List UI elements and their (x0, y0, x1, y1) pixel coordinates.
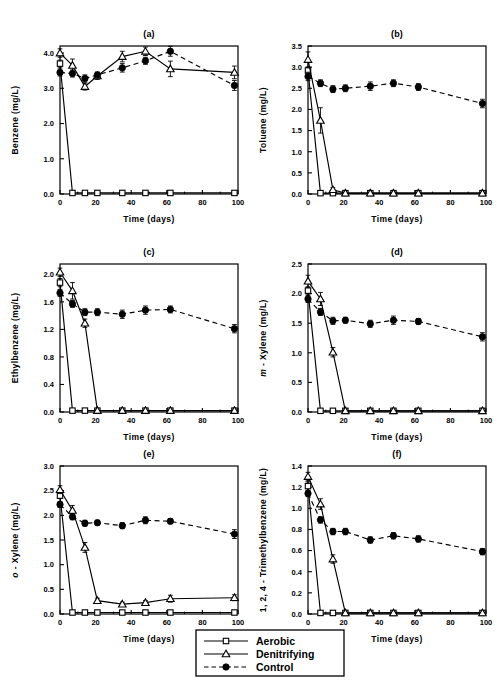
x-tick-label: 0 (58, 618, 62, 627)
data-point-open-triangle (329, 186, 337, 193)
data-point-filled-circle (390, 317, 396, 323)
series-denitrifying (56, 486, 238, 607)
series-denitrifying (304, 52, 486, 196)
data-point-filled-circle (390, 80, 396, 86)
data-point-filled-circle (142, 517, 148, 523)
y-tick-label: 2.5 (292, 84, 302, 93)
series-aerobic (305, 482, 485, 616)
data-point-filled-circle (367, 537, 373, 543)
y-tick-label: 0.0 (44, 610, 54, 619)
data-point-filled-circle (342, 528, 348, 534)
data-point-filled-circle (342, 85, 348, 91)
data-point-filled-circle (342, 317, 348, 323)
legend-label: Aerobic (256, 635, 295, 647)
x-tick-label: 80 (446, 618, 454, 627)
y-tick-label: 1.2 (292, 483, 302, 492)
data-point-filled-circle (167, 48, 173, 54)
x-tick-label: 20 (339, 198, 347, 207)
chart-svg: (c)0.00.40.81.21.62.0020406080100Time (d… (0, 240, 249, 455)
data-point-open-square (318, 408, 323, 413)
data-point-filled-circle (142, 307, 148, 313)
data-point-filled-circle (305, 490, 311, 496)
data-point-open-square (143, 190, 148, 195)
data-point-open-square (305, 483, 310, 488)
series-denitrifying (56, 268, 238, 413)
x-tick-label: 80 (198, 198, 206, 207)
x-tick-label: 40 (127, 198, 135, 207)
x-tick-label: 60 (411, 198, 419, 207)
data-point-open-square (70, 408, 75, 413)
data-point-filled-circle (167, 518, 173, 524)
data-point-filled-circle (305, 296, 311, 302)
data-point-open-square (330, 610, 335, 615)
x-tick-label: 40 (375, 618, 383, 627)
y-tick-label: 1.5 (44, 536, 54, 545)
panel-d: (d)0.00.51.01.52.02.5020406080100Time (d… (248, 240, 497, 455)
data-point-open-triangle (167, 65, 175, 72)
data-point-filled-circle (69, 514, 75, 520)
panel-e: (e)0.00.51.01.52.02.53.0020406080100Time… (0, 442, 249, 657)
x-tick-label: 0 (58, 198, 62, 207)
series-line (308, 486, 482, 613)
series-denitrifying (304, 472, 486, 615)
data-point-filled-circle (415, 536, 421, 542)
data-point-open-square (70, 610, 75, 615)
panel-title: (e) (143, 449, 155, 459)
plot-frame (308, 466, 486, 614)
data-point-open-triangle (317, 500, 325, 507)
x-tick-label: 60 (411, 618, 419, 627)
x-tick-label: 100 (232, 198, 245, 207)
chart-svg: (d)0.00.51.01.52.02.5020406080100Time (d… (248, 240, 497, 455)
data-point-open-square (168, 190, 173, 195)
data-point-open-square (318, 610, 323, 615)
data-point-filled-circle (69, 70, 75, 76)
series-line (308, 477, 482, 613)
series-aerobic (57, 278, 237, 413)
data-point-open-square (232, 190, 237, 195)
series-control (305, 295, 486, 341)
data-point-open-triangle (81, 544, 89, 551)
legend-label: Control (256, 661, 293, 673)
data-point-filled-circle (367, 321, 373, 327)
x-tick-label: 0 (306, 198, 310, 207)
data-point-open-square (70, 190, 75, 195)
y-tick-label: 2.0 (292, 105, 302, 114)
data-point-filled-circle (94, 520, 100, 526)
x-tick-label: 60 (163, 618, 171, 627)
y-tick-label: 4.0 (44, 49, 54, 58)
plot-frame (60, 46, 238, 194)
data-point-open-triangle (56, 268, 64, 275)
x-axis-title: Time (days) (123, 432, 174, 442)
data-point-filled-circle (231, 326, 237, 332)
series-control (305, 72, 486, 108)
data-point-filled-circle (479, 100, 485, 106)
data-point-filled-circle (231, 531, 237, 537)
figure-root: (a)0.01.02.03.04.0020406080100Time (days… (0, 0, 497, 684)
y-tick-label: 0.0 (44, 190, 54, 199)
data-point-filled-circle (94, 309, 100, 315)
y-tick-label: 2.0 (44, 511, 54, 520)
data-point-filled-circle (317, 309, 323, 315)
y-tick-label: 3.5 (292, 42, 302, 51)
data-point-open-triangle (56, 486, 64, 493)
y-tick-label: 0.5 (292, 378, 302, 387)
y-axis-title: Ethylbenzene (mg/L) (10, 293, 20, 384)
data-point-open-square (120, 190, 125, 195)
y-tick-label: 0.5 (292, 169, 302, 178)
y-axis-title: o - Xylene (mg/L) (10, 502, 20, 577)
panel-title: (d) (391, 247, 403, 257)
data-point-filled-circle (119, 523, 125, 529)
chart-svg: (f)0.00.20.40.60.81.01.21.4020406080100T… (248, 442, 497, 657)
data-point-open-triangle (304, 277, 312, 284)
data-point-open-triangle (69, 507, 77, 514)
data-point-filled-circle (57, 69, 63, 75)
data-point-open-square (330, 408, 335, 413)
y-tick-label: 1.0 (44, 560, 54, 569)
data-point-filled-circle (415, 84, 421, 90)
data-point-filled-circle (305, 73, 311, 79)
data-point-open-triangle (329, 348, 337, 355)
chart-svg: (a)0.01.02.03.04.0020406080100Time (days… (0, 22, 249, 237)
x-tick-label: 100 (480, 618, 493, 627)
y-tick-label: 0.6 (292, 546, 302, 555)
data-point-open-square (232, 610, 237, 615)
